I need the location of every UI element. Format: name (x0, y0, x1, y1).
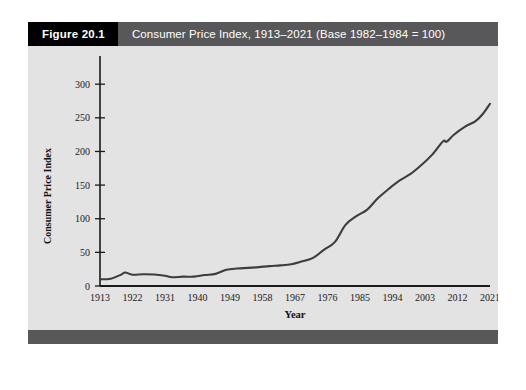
x-tick-label: 1949 (220, 292, 240, 303)
y-tick-label: 250 (75, 112, 90, 123)
x-tick-label: 1940 (188, 292, 208, 303)
chart-panel: 050100150200250300 191319221931194019491… (28, 46, 498, 330)
x-axis-title: Year (285, 309, 306, 320)
x-tick-label: 2003 (415, 292, 435, 303)
y-tick-label: 100 (75, 213, 90, 224)
y-axis: 050100150200250300 (75, 56, 105, 292)
x-tick-label: 2021 (480, 292, 498, 303)
x-axis: 1913192219311940194919581967197619851994… (90, 286, 498, 303)
x-tick-label: 1931 (155, 292, 175, 303)
x-tick-label: 1913 (90, 292, 110, 303)
figure-container: Figure 20.1 Consumer Price Index, 1913–2… (28, 22, 498, 352)
cpi-line-series (100, 104, 490, 280)
chart-plot-area: 050100150200250300 191319221931194019491… (28, 46, 498, 330)
y-tick-label: 200 (75, 146, 90, 157)
y-tick-label: 0 (85, 281, 90, 292)
x-tick-label: 1976 (318, 292, 338, 303)
line-chart: 050100150200250300 191319221931194019491… (28, 46, 498, 330)
x-tick-label: 1922 (123, 292, 143, 303)
y-tick-label: 50 (80, 247, 90, 258)
figure-title: Consumer Price Index, 1913–2021 (Base 19… (118, 22, 445, 46)
y-tick-label: 150 (75, 180, 90, 191)
y-axis-title: Consumer Price Index (42, 148, 53, 244)
figure-footer-bar (28, 330, 498, 344)
y-tick-label: 300 (75, 79, 90, 90)
x-tick-label: 2012 (448, 292, 468, 303)
figure-header: Figure 20.1 Consumer Price Index, 1913–2… (28, 22, 498, 46)
x-tick-label: 1958 (253, 292, 273, 303)
x-tick-label: 1985 (350, 292, 370, 303)
x-tick-label: 1967 (285, 292, 305, 303)
x-tick-label: 1994 (383, 292, 403, 303)
figure-number-tag: Figure 20.1 (28, 22, 118, 46)
